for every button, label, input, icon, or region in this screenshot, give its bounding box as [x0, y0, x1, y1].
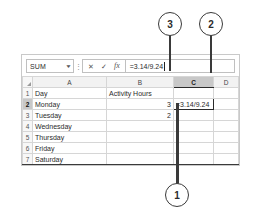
cell-b3[interactable]: 2: [107, 110, 174, 121]
cell-c5[interactable]: [174, 132, 214, 143]
table-row: 1 Day Activity Hours: [23, 88, 239, 99]
cell-c2-editing[interactable]: =3.14/9.24: [174, 99, 214, 110]
column-header-a[interactable]: A: [33, 77, 107, 88]
callout-marker-2: 2: [199, 12, 223, 36]
formula-input[interactable]: =3.14/9.24: [125, 59, 235, 73]
cell-c1[interactable]: [174, 88, 214, 99]
text-caret: [164, 62, 165, 71]
cell-c3[interactable]: [174, 110, 214, 121]
callout-marker-1: 1: [165, 183, 189, 207]
column-header-d[interactable]: D: [214, 77, 239, 88]
table-row: 3 Tuesday 2: [23, 110, 239, 121]
cell-d7[interactable]: [214, 154, 239, 165]
name-box-value: SUM: [30, 63, 66, 70]
callout-label-3: 3: [167, 19, 173, 30]
cell-a2[interactable]: Monday: [33, 99, 107, 110]
spreadsheet-grid: A B C D 1 Day Activity Hours 2 Monday 3 …: [22, 76, 239, 165]
cell-b6[interactable]: [107, 143, 174, 154]
callout-3-leader-line: [169, 33, 171, 71]
cell-a3[interactable]: Tuesday: [33, 110, 107, 121]
cell-a5[interactable]: Thursday: [33, 132, 107, 143]
formula-bar: SUM ▼ ⋮ ✕ ✓ fx =3.14/9.24: [22, 55, 239, 76]
column-header-b[interactable]: B: [107, 77, 174, 88]
row-header-1[interactable]: 1: [23, 88, 33, 99]
cell-d4[interactable]: [214, 121, 239, 132]
cancel-icon[interactable]: ✕: [88, 63, 94, 70]
callout-2-leader-line: [210, 33, 212, 73]
table-row: 5 Thursday: [23, 132, 239, 143]
callout-marker-3: 3: [158, 12, 182, 36]
cell-d2[interactable]: [214, 99, 239, 110]
cell-c7[interactable]: [174, 154, 214, 165]
select-all-triangle-icon[interactable]: [23, 77, 33, 88]
spreadsheet-panel: SUM ▼ ⋮ ✕ ✓ fx =3.14/9.24 A B C D 1 Day …: [21, 54, 240, 166]
formula-action-group: ✕ ✓ fx: [82, 59, 125, 73]
formula-input-value: =3.14/9.24: [130, 63, 163, 70]
table-row: 6 Friday: [23, 143, 239, 154]
cell-d3[interactable]: [214, 110, 239, 121]
callout-label-2: 2: [208, 19, 214, 30]
column-header-c[interactable]: C: [174, 77, 214, 88]
cell-b4[interactable]: [107, 121, 174, 132]
cell-b5[interactable]: [107, 132, 174, 143]
table-row: 7 Saturday: [23, 154, 239, 165]
row-header-6[interactable]: 6: [23, 143, 33, 154]
cell-c4[interactable]: [174, 121, 214, 132]
callout-label-1: 1: [174, 190, 180, 201]
callout-1-leader-line: [176, 103, 179, 185]
row-header-7[interactable]: 7: [23, 154, 33, 165]
enter-icon[interactable]: ✓: [101, 63, 107, 70]
row-header-4[interactable]: 4: [23, 121, 33, 132]
cell-b2[interactable]: 3: [107, 99, 174, 110]
cell-a7[interactable]: Saturday: [33, 154, 107, 165]
cell-a6[interactable]: Friday: [33, 143, 107, 154]
row-header-2[interactable]: 2: [23, 99, 33, 110]
insert-function-icon[interactable]: fx: [114, 62, 120, 70]
chevron-down-icon[interactable]: ▼: [65, 64, 72, 69]
cell-d1[interactable]: [214, 88, 239, 99]
cell-c6[interactable]: [174, 143, 214, 154]
cell-a4[interactable]: Wednesday: [33, 121, 107, 132]
vertical-dots-icon[interactable]: ⋮: [74, 63, 82, 70]
cell-d6[interactable]: [214, 143, 239, 154]
table-row: 2 Monday 3 =3.14/9.24: [23, 99, 239, 110]
table-row: 4 Wednesday: [23, 121, 239, 132]
cell-b7[interactable]: [107, 154, 174, 165]
column-header-row: A B C D: [23, 77, 239, 88]
name-box[interactable]: SUM ▼: [26, 59, 74, 73]
cell-b1[interactable]: Activity Hours: [107, 88, 174, 99]
cell-a1[interactable]: Day: [33, 88, 107, 99]
cell-d5[interactable]: [214, 132, 239, 143]
row-header-5[interactable]: 5: [23, 132, 33, 143]
row-header-3[interactable]: 3: [23, 110, 33, 121]
